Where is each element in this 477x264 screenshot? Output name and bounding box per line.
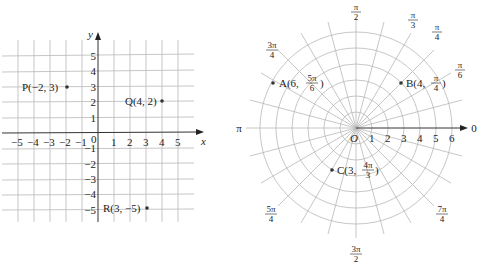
svg-text:1: 1 bbox=[91, 112, 97, 124]
polar-plot: O 1 2 3 4 5 6 0 π 6 π 4 π 3 π 2 3π 4 π 5 bbox=[236, 2, 477, 264]
svg-text:−1: −1 bbox=[84, 142, 96, 154]
svg-text:4: 4 bbox=[434, 83, 439, 93]
svg-text:5π: 5π bbox=[307, 73, 317, 83]
point-B: B(4, π 4 ) bbox=[399, 73, 446, 93]
svg-text:3: 3 bbox=[366, 170, 371, 180]
svg-text:): ) bbox=[320, 77, 324, 90]
x-axis bbox=[2, 132, 198, 133]
point-P-label: P(−2, 3) bbox=[22, 81, 58, 94]
point-R-label: R(3, −5) bbox=[103, 202, 141, 215]
svg-text:2: 2 bbox=[127, 136, 133, 148]
svg-text:7π: 7π bbox=[437, 204, 447, 214]
svg-text:−5: −5 bbox=[11, 136, 23, 148]
svg-text:3: 3 bbox=[411, 20, 416, 30]
svg-text:5π: 5π bbox=[266, 204, 276, 214]
svg-text:1: 1 bbox=[111, 136, 117, 148]
svg-text:3: 3 bbox=[401, 132, 407, 144]
svg-text:3π: 3π bbox=[351, 244, 361, 254]
svg-text:2: 2 bbox=[354, 254, 359, 264]
svg-text:A(6,: A(6, bbox=[279, 77, 299, 90]
svg-text:5: 5 bbox=[433, 132, 439, 144]
svg-text:): ) bbox=[442, 77, 446, 90]
x-tick-labels: −5 −4 −3 −2 −1 0 1 2 3 4 5 bbox=[11, 133, 181, 148]
svg-text:π: π bbox=[435, 22, 440, 32]
svg-text:4: 4 bbox=[159, 136, 165, 148]
svg-text:4: 4 bbox=[269, 214, 274, 224]
svg-text:3π: 3π bbox=[267, 40, 277, 50]
svg-text:−3: −3 bbox=[84, 173, 96, 185]
svg-text:B(4,: B(4, bbox=[406, 77, 426, 90]
point-P: P(−2, 3) bbox=[22, 81, 69, 94]
svg-text:4π: 4π bbox=[363, 160, 373, 170]
svg-text:4: 4 bbox=[270, 50, 275, 60]
svg-text:O: O bbox=[350, 132, 358, 144]
point-R: R(3, −5) bbox=[103, 202, 149, 215]
svg-text:π: π bbox=[354, 2, 359, 12]
svg-text:6: 6 bbox=[458, 70, 463, 80]
svg-text:4: 4 bbox=[417, 132, 423, 144]
svg-text:C(3,: C(3, bbox=[337, 164, 357, 177]
point-A: A(6, 5π 6 ) bbox=[271, 73, 324, 93]
point-Q-label: Q(4, 2) bbox=[125, 95, 157, 108]
point-C: C(3, 4π 3 ) bbox=[330, 160, 379, 180]
svg-text:−4: −4 bbox=[27, 136, 39, 148]
svg-text:−5: −5 bbox=[84, 204, 96, 216]
svg-text:3: 3 bbox=[143, 136, 149, 148]
svg-text:−2: −2 bbox=[59, 136, 71, 148]
polar-axis-arrow-icon bbox=[460, 125, 468, 131]
svg-text:π: π bbox=[236, 122, 242, 134]
svg-text:3: 3 bbox=[91, 81, 97, 93]
svg-text:1: 1 bbox=[369, 132, 375, 144]
svg-text:π: π bbox=[458, 60, 463, 70]
svg-text:4: 4 bbox=[435, 32, 440, 42]
svg-text:2: 2 bbox=[354, 12, 359, 22]
svg-text:−2: −2 bbox=[84, 158, 96, 170]
svg-text:π: π bbox=[411, 10, 416, 20]
svg-text:6: 6 bbox=[310, 83, 315, 93]
y-axis-label: y bbox=[87, 28, 93, 40]
svg-text:2: 2 bbox=[385, 132, 391, 144]
x-axis-label: x bbox=[200, 135, 206, 147]
svg-text:4: 4 bbox=[91, 65, 97, 77]
cartesian-plot: x y −5 −4 −3 −2 −1 0 1 2 3 4 5 5 4 3 2 1… bbox=[2, 28, 206, 222]
svg-text:−4: −4 bbox=[84, 188, 96, 200]
svg-text:4: 4 bbox=[440, 214, 445, 224]
svg-text:0: 0 bbox=[471, 122, 477, 134]
svg-text:5: 5 bbox=[91, 50, 97, 62]
y-axis-arrow-icon bbox=[95, 32, 101, 40]
svg-text:6: 6 bbox=[449, 132, 455, 144]
svg-text:5: 5 bbox=[175, 136, 181, 148]
svg-text:−3: −3 bbox=[43, 136, 55, 148]
svg-text:π: π bbox=[434, 73, 439, 83]
svg-text:2: 2 bbox=[91, 96, 97, 108]
svg-text:): ) bbox=[375, 164, 379, 177]
figure: x y −5 −4 −3 −2 −1 0 1 2 3 4 5 5 4 3 2 1… bbox=[0, 0, 477, 264]
